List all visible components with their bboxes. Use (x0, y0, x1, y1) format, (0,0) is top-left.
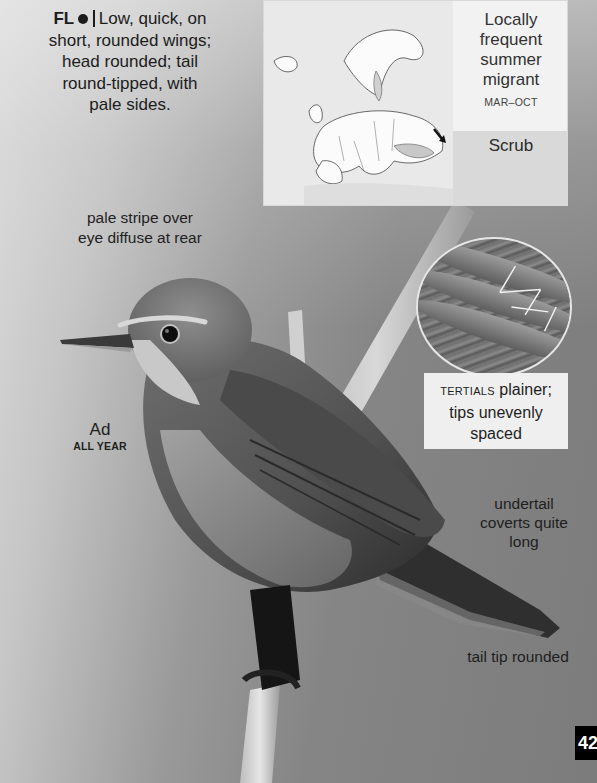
annotation-undertail: undertail coverts quite long (464, 494, 584, 551)
flight-label: FL (53, 9, 74, 28)
tertials-caption: TERTIALS plainer; tips unevenly spaced (424, 373, 568, 449)
season-months: MAR–OCT (453, 92, 568, 112)
habitat-panel: Scrub (453, 131, 568, 206)
range-map: Locally frequent summer migrant MAR–OCT … (263, 0, 568, 206)
age-text: Ad (60, 420, 140, 440)
tertials-inset (416, 237, 572, 377)
separator-bar (93, 10, 95, 27)
annotation-eye-stripe: pale stripe over eye diffuse at rear (40, 208, 240, 248)
annotation-tail-tip: tail tip rounded (448, 648, 588, 666)
filled-circle-icon (78, 14, 88, 24)
page-number-tab: 42 (575, 726, 597, 760)
pointer-lines (418, 239, 570, 375)
field-guide-page: FLLow, quick, on short, rounded wings; h… (0, 0, 597, 783)
flight-description: FLLow, quick, on short, rounded wings; h… (4, 8, 256, 116)
europe-map (264, 1, 454, 206)
season-text: ALL YEAR (60, 440, 140, 452)
age-label: Ad ALL YEAR (60, 420, 140, 452)
status-panel: Locally frequent summer migrant MAR–OCT (453, 1, 568, 131)
